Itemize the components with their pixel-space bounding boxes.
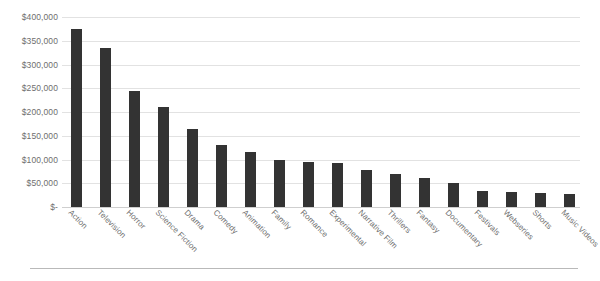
x-axis-tick-label: Fantasy: [414, 208, 441, 235]
x-axis-tick-label: Television: [95, 208, 127, 240]
bar[interactable]: [564, 194, 575, 207]
bar[interactable]: [245, 152, 256, 207]
y-axis-tick-label: $150,000: [0, 132, 58, 141]
bar[interactable]: [187, 129, 198, 207]
x-axis: ActionTelevisionHorrorScience FictionDra…: [62, 208, 596, 268]
y-axis-tick-label: $200,000: [0, 108, 58, 117]
gridline: [62, 65, 580, 66]
footer-divider: [30, 268, 578, 269]
x-axis-tick-label: Webseries: [501, 208, 535, 242]
y-axis-tick-label: $400,000: [0, 13, 58, 22]
bar[interactable]: [332, 163, 343, 207]
x-axis-tick-label: Family: [269, 208, 292, 231]
bar[interactable]: [390, 174, 401, 207]
x-axis-tick-label: Music Videos: [559, 208, 600, 249]
x-axis-tick-label: Shorts: [530, 208, 553, 231]
gridline: [62, 17, 580, 18]
bar[interactable]: [158, 107, 169, 207]
x-axis-tick-label: Romance: [298, 208, 329, 239]
bar[interactable]: [100, 48, 111, 207]
x-axis-tick-label: Thrillers: [385, 208, 412, 235]
bar[interactable]: [361, 170, 372, 207]
x-axis-tick-label: Horror: [124, 208, 147, 231]
y-axis-tick-label: $250,000: [0, 84, 58, 93]
bar[interactable]: [506, 192, 517, 207]
bar[interactable]: [216, 145, 227, 207]
bar[interactable]: [535, 193, 546, 207]
plot-area: [62, 17, 580, 207]
y-axis-tick-label: $50,000: [0, 179, 58, 188]
gridline: [62, 88, 580, 89]
bar[interactable]: [477, 191, 488, 207]
x-axis-tick-label: Action: [66, 208, 89, 231]
bar[interactable]: [303, 162, 314, 207]
bar[interactable]: [129, 91, 140, 207]
bar[interactable]: [274, 160, 285, 208]
bar[interactable]: [448, 183, 459, 207]
y-axis-tick-label: $300,000: [0, 61, 58, 70]
bar[interactable]: [71, 29, 82, 207]
y-axis-tick-label: $-: [0, 203, 58, 212]
x-axis-tick-label: Comedy: [211, 208, 239, 236]
y-axis-tick-label: $350,000: [0, 37, 58, 46]
bar[interactable]: [419, 178, 430, 207]
y-axis-tick-label: $100,000: [0, 156, 58, 165]
gridline: [62, 41, 580, 42]
x-axis-tick-label: Drama: [182, 208, 206, 232]
y-axis: $400,000$350,000$300,000$250,000$200,000…: [0, 0, 58, 281]
x-axis-tick-label: Festivals: [472, 208, 501, 237]
x-axis-tick-label: Animation: [240, 208, 272, 240]
